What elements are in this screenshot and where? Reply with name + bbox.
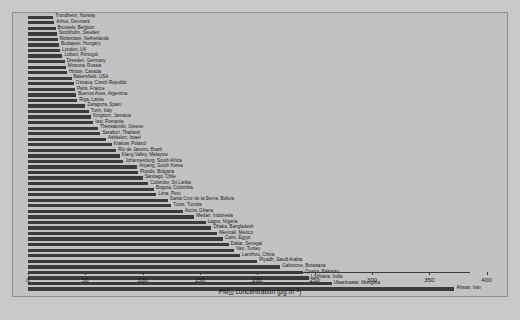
bar [28, 16, 53, 19]
bar [28, 165, 137, 168]
bar [28, 104, 85, 107]
bar [28, 232, 217, 235]
bar [28, 82, 74, 85]
x-tick-label: 100 [137, 276, 147, 283]
bar [28, 171, 138, 174]
bar [28, 237, 223, 240]
bars-area: Trondheim, NorwayArhus, DenmarkBrussels,… [28, 15, 498, 269]
bar [28, 254, 240, 257]
x-axis-title: PM10 concentration (µg m−3) [0, 288, 520, 296]
bar [28, 265, 280, 268]
x-tick [28, 272, 29, 275]
bar [28, 282, 332, 285]
x-tick-label: 200 [252, 276, 262, 283]
bar [28, 210, 183, 213]
bar [28, 276, 309, 279]
bar [28, 221, 206, 224]
bar [28, 260, 257, 263]
bar [28, 127, 98, 130]
bar [28, 121, 93, 124]
bar [28, 93, 76, 96]
x-tick-label: 350 [424, 276, 434, 283]
bar [28, 66, 66, 69]
bar [28, 249, 234, 252]
bar [28, 154, 120, 157]
bar [28, 215, 194, 218]
bar [28, 226, 211, 229]
x-axis-title-rest: concentration (µg m [234, 288, 294, 295]
bar [28, 188, 154, 191]
bar [28, 243, 229, 246]
bar [28, 204, 171, 207]
x-tick [143, 272, 144, 275]
x-axis-title-close: ) [299, 288, 301, 295]
bar [28, 21, 54, 24]
bar [28, 88, 75, 91]
bar [28, 32, 57, 35]
bar [28, 54, 62, 57]
bar [28, 132, 100, 135]
x-axis-line [28, 272, 470, 273]
chart-figure: Trondheim, NorwayArhus, DenmarkBrussels,… [0, 0, 520, 320]
bar [28, 143, 112, 146]
x-tick [372, 272, 373, 275]
bar [28, 160, 123, 163]
x-axis-title-main: PM [219, 288, 229, 295]
bar [28, 71, 67, 74]
bar [28, 176, 143, 179]
x-tick-label: 400 [481, 276, 491, 283]
bar [28, 182, 148, 185]
x-tick-label: 150 [195, 276, 205, 283]
bar [28, 99, 77, 102]
bar [28, 193, 156, 196]
x-tick [85, 272, 86, 275]
x-tick [200, 272, 201, 275]
bar [28, 77, 72, 80]
x-tick-label: 0 [26, 276, 29, 283]
x-tick-label: 300 [367, 276, 377, 283]
x-tick-label: 50 [82, 276, 89, 283]
x-tick [487, 272, 488, 275]
x-tick [315, 272, 316, 275]
x-tick [257, 272, 258, 275]
bar [28, 38, 58, 41]
x-tick [429, 272, 430, 275]
x-tick-label: 250 [309, 276, 319, 283]
bar [28, 138, 106, 141]
bar [28, 110, 89, 113]
bar [28, 43, 59, 46]
bar [28, 49, 60, 52]
bar [28, 115, 91, 118]
bar [28, 199, 168, 202]
bar [28, 27, 56, 30]
bar [28, 149, 116, 152]
bar [28, 60, 65, 63]
